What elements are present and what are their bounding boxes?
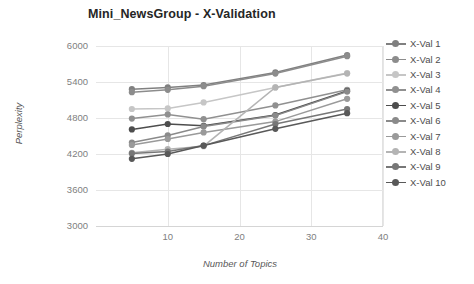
legend-label: X-Val 9 xyxy=(410,161,440,172)
legend-item[interactable]: X-Val 7 xyxy=(386,128,474,143)
legend-item[interactable]: X-Val 5 xyxy=(386,98,474,113)
data-series xyxy=(129,70,350,112)
legend-marker-icon xyxy=(386,84,406,95)
legend-label: X-Val 3 xyxy=(410,69,440,80)
chart-container: Mini_NewsGroup - X-Validation 3000360042… xyxy=(0,0,474,284)
legend-marker-icon xyxy=(386,177,406,188)
data-point-marker xyxy=(344,89,350,95)
data-point-marker xyxy=(165,105,171,111)
legend-item[interactable]: X-Val 9 xyxy=(386,159,474,174)
series-line xyxy=(132,109,347,153)
y-axis-title: Perplexity xyxy=(13,84,24,164)
legend-item[interactable]: X-Val 2 xyxy=(386,51,474,66)
legend-marker-icon xyxy=(386,38,406,49)
data-point-marker xyxy=(344,110,350,116)
data-point-marker xyxy=(272,113,278,119)
y-axis-tick-labels: 300036004200480054006000 xyxy=(42,46,88,226)
legend-label: X-Val 7 xyxy=(410,131,440,142)
y-axis-tick-label: 4800 xyxy=(46,113,88,123)
data-point-marker xyxy=(129,142,135,148)
x-axis-tick-label: 40 xyxy=(363,232,403,242)
data-series xyxy=(129,52,350,92)
legend-label: X-Val 5 xyxy=(410,100,440,111)
x-axis-tick-label: 30 xyxy=(291,232,331,242)
legend-label: X-Val 6 xyxy=(410,115,440,126)
legend-label: X-Val 8 xyxy=(410,146,440,157)
legend: X-Val 1X-Val 2X-Val 3X-Val 4X-Val 5X-Val… xyxy=(386,36,474,190)
data-point-marker xyxy=(201,99,207,105)
data-point-marker xyxy=(201,129,207,135)
data-point-marker xyxy=(165,121,171,127)
data-point-marker xyxy=(129,126,135,132)
data-point-marker xyxy=(344,71,350,77)
series-line xyxy=(132,55,347,89)
data-point-marker xyxy=(272,71,278,77)
gridline-horizontal xyxy=(96,226,383,227)
data-series xyxy=(129,71,350,156)
data-point-marker xyxy=(272,84,278,90)
y-axis-tick-label: 3600 xyxy=(46,185,88,195)
legend-marker-icon xyxy=(386,146,406,157)
legend-marker-icon xyxy=(386,161,406,172)
series-line xyxy=(132,99,347,145)
series-line xyxy=(132,56,347,92)
data-point-marker xyxy=(201,143,207,149)
legend-marker-icon xyxy=(386,115,406,126)
x-axis-tick-labels: 10203040 xyxy=(96,232,396,246)
y-axis-tick-label: 4200 xyxy=(46,149,88,159)
legend-label: X-Val 10 xyxy=(410,177,446,188)
legend-marker-icon xyxy=(386,100,406,111)
legend-label: X-Val 1 xyxy=(410,38,440,49)
data-point-marker xyxy=(129,89,135,95)
data-point-marker xyxy=(165,87,171,93)
data-point-marker xyxy=(165,136,171,142)
data-point-marker xyxy=(165,111,171,117)
legend-label: X-Val 4 xyxy=(410,84,440,95)
legend-marker-icon xyxy=(386,54,406,65)
legend-item[interactable]: X-Val 10 xyxy=(386,175,474,190)
legend-marker-icon xyxy=(386,69,406,80)
data-point-marker xyxy=(344,96,350,102)
data-point-marker xyxy=(129,150,135,156)
data-point-marker xyxy=(272,102,278,108)
data-point-marker xyxy=(165,151,171,157)
legend-label: X-Val 2 xyxy=(410,54,440,65)
legend-item[interactable]: X-Val 4 xyxy=(386,82,474,97)
legend-marker-icon xyxy=(386,131,406,142)
legend-item[interactable]: X-Val 6 xyxy=(386,113,474,128)
data-point-marker xyxy=(201,123,207,129)
y-axis-tick-label: 5400 xyxy=(46,77,88,87)
legend-item[interactable]: X-Val 3 xyxy=(386,67,474,82)
chart-title: Mini_NewsGroup - X-Validation xyxy=(88,7,388,21)
data-series xyxy=(129,106,350,157)
legend-item[interactable]: X-Val 8 xyxy=(386,144,474,159)
series-line xyxy=(132,74,347,153)
data-series xyxy=(129,53,350,95)
data-series xyxy=(129,96,350,148)
plot-area xyxy=(96,46,383,226)
y-axis-tick-label: 6000 xyxy=(46,41,88,51)
x-axis-tick-label: 20 xyxy=(220,232,260,242)
legend-item[interactable]: X-Val 1 xyxy=(386,36,474,51)
data-point-marker xyxy=(344,53,350,59)
data-point-marker xyxy=(129,116,135,122)
data-point-marker xyxy=(201,116,207,122)
y-axis-tick-label: 3000 xyxy=(46,221,88,231)
data-point-marker xyxy=(272,126,278,132)
data-series-layer xyxy=(84,46,404,226)
x-axis-tick-label: 10 xyxy=(148,232,188,242)
data-point-marker xyxy=(201,83,207,89)
x-axis-title: Number of Topics xyxy=(150,258,330,269)
data-point-marker xyxy=(129,106,135,112)
data-point-marker xyxy=(129,156,135,162)
